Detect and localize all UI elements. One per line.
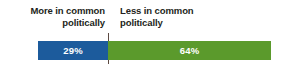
legend-label-less-in-common: Less in common politically <box>120 5 270 28</box>
bar-value-more-in-common: 29% <box>63 46 83 56</box>
bar-segment-more-in-common: 29% <box>38 41 108 60</box>
legend-label-more-in-common: More in common politically <box>0 5 105 28</box>
legend-label-more-line2: politically <box>62 17 105 28</box>
legend-label-more-line1: More in common <box>30 5 105 16</box>
bar-track: 29% 64% <box>38 41 271 60</box>
stacked-bar-chart: More in common politically Less in commo… <box>0 0 281 64</box>
legend-label-less-line1: Less in common <box>120 5 194 16</box>
bar-value-less-in-common: 64% <box>180 46 200 56</box>
chart-legend-labels: More in common politically Less in commo… <box>0 0 281 36</box>
legend-label-less-line2: politically <box>120 17 163 28</box>
bar-segment-less-in-common: 64% <box>108 41 271 60</box>
